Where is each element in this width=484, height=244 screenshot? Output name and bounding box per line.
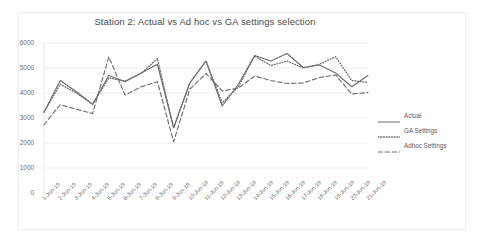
y-axis-tick-label: 4000: [8, 89, 34, 96]
legend-line-swatch: [378, 112, 400, 120]
series-line-0: [44, 54, 368, 128]
series-line-2: [44, 57, 368, 142]
legend-item-0[interactable]: Actual: [378, 108, 478, 123]
y-axis-tick-label: 0: [8, 189, 34, 196]
y-axis-tick-label: 5000: [8, 64, 34, 71]
y-axis-tick-label: 6000: [8, 39, 34, 46]
legend-item-label: GA Settings: [404, 127, 437, 134]
y-axis-tick-label: 2000: [8, 139, 34, 146]
chart-legend: ActualGA SettingsAdhoc Settings: [378, 108, 478, 153]
legend-line-swatch: [378, 127, 400, 135]
series-line-1: [44, 56, 368, 128]
legend-item-label: Actual: [404, 112, 422, 119]
legend-item-label: Adhoc Settings: [404, 142, 446, 149]
y-axis-tick-label: 3000: [8, 114, 34, 121]
legend-line-swatch: [378, 142, 400, 150]
y-axis-tick-label: 1000: [8, 164, 34, 171]
